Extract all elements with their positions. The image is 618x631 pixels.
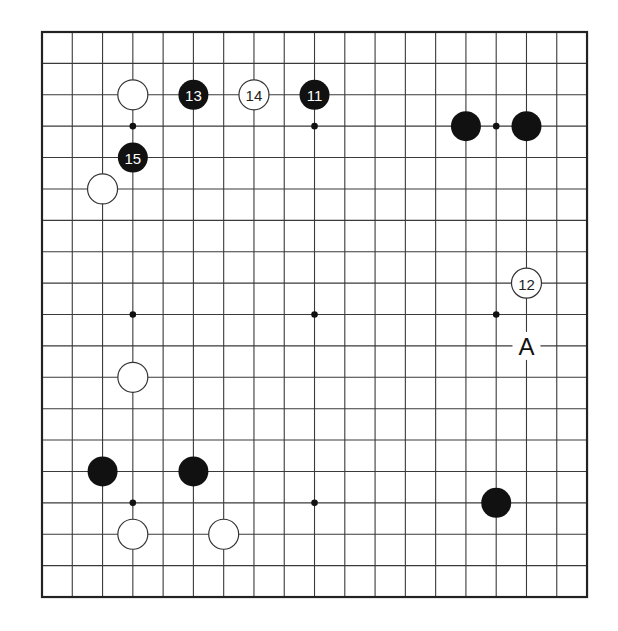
black-stone[interactable] [511,111,541,141]
black-stone-circle [451,111,481,141]
star-point [130,500,137,507]
white-stone[interactable] [118,362,148,392]
black-stone-11[interactable]: 11 [300,80,330,110]
black-stone-circle [511,111,541,141]
star-point [130,123,137,130]
white-stone-12[interactable]: 12 [511,268,541,298]
white-stone-14[interactable]: 14 [239,80,269,110]
white-stone[interactable] [118,519,148,549]
star-point [493,123,500,130]
point-label-A: A [512,332,540,361]
white-stone[interactable] [209,519,239,549]
star-point [311,500,318,507]
black-stone-15[interactable]: 15 [118,143,148,173]
black-stone-13[interactable]: 13 [178,80,208,110]
black-stone-circle [178,456,208,486]
black-stone[interactable] [178,456,208,486]
go-board[interactable]: 1314111512 A [0,0,618,631]
white-stone[interactable] [118,80,148,110]
white-stone-circle [118,519,148,549]
move-number: 13 [185,87,202,104]
move-number: 14 [246,87,263,104]
star-point [493,311,500,318]
black-stone-circle [88,456,118,486]
label-text: A [518,333,534,360]
black-stone[interactable] [451,111,481,141]
move-number: 12 [518,276,535,293]
white-stone-circle [209,519,239,549]
board-labels: A [512,332,540,361]
black-stone[interactable] [88,456,118,486]
white-stone-circle [118,362,148,392]
black-stone-circle [481,488,511,518]
move-number: 15 [124,150,141,167]
white-stone-circle [88,174,118,204]
white-stone[interactable] [88,174,118,204]
star-point [311,311,318,318]
black-stone[interactable] [481,488,511,518]
white-stone-circle [118,80,148,110]
star-point [130,311,137,318]
star-point [311,123,318,130]
move-number: 11 [307,87,323,104]
